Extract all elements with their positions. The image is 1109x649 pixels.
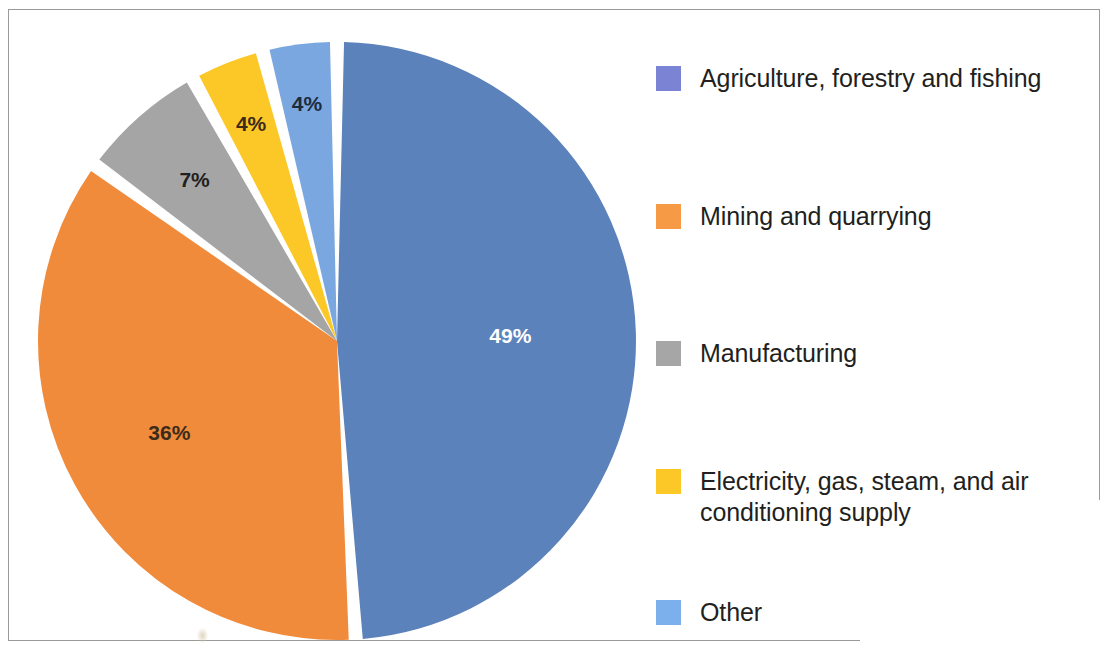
legend-item-agriculture-forestry-and-fishing[interactable]: Agriculture, forestry and fishing xyxy=(656,63,1096,94)
pie-slice-value-label-0: 49% xyxy=(489,324,531,347)
pie-chart-figure: 49%36%7%4%4% Agriculture, forestry and f… xyxy=(0,0,1109,649)
pie-slice-value-label-4: 4% xyxy=(292,92,323,115)
legend-item-mining-and-quarrying[interactable]: Mining and quarrying xyxy=(656,201,1096,232)
pie-slice-group xyxy=(38,42,636,640)
legend-item-other[interactable]: Other xyxy=(656,597,1096,628)
pie-slice-value-label-2: 7% xyxy=(179,168,210,191)
pie-slice-0[interactable] xyxy=(337,42,636,639)
legend-label-3: Electricity, gas, steam, and air conditi… xyxy=(700,466,1096,528)
legend-swatch-icon-1 xyxy=(656,204,681,229)
legend-swatch-icon-0 xyxy=(656,66,681,91)
legend-item-electricity-gas-steam-and-air-conditioning-supply[interactable]: Electricity, gas, steam, and air conditi… xyxy=(656,466,1096,528)
legend-label-1: Mining and quarrying xyxy=(700,201,931,232)
pie-slice-value-label-3: 4% xyxy=(236,112,267,135)
legend-swatch-icon-4 xyxy=(656,600,681,625)
legend-label-2: Manufacturing xyxy=(700,338,857,369)
pie-chart-svg: 49%36%7%4%4% xyxy=(0,0,680,649)
legend-swatch-icon-3 xyxy=(656,469,681,494)
pie-chart-plot-area: 49%36%7%4%4% xyxy=(0,0,680,649)
legend-label-0: Agriculture, forestry and fishing xyxy=(700,63,1041,94)
legend-label-4: Other xyxy=(700,597,762,628)
legend-item-manufacturing[interactable]: Manufacturing xyxy=(656,338,1096,369)
chart-legend: Agriculture, forestry and fishing Mining… xyxy=(656,0,1109,649)
legend-swatch-icon-2 xyxy=(656,341,681,366)
pie-slice-value-label-1: 36% xyxy=(148,421,190,444)
